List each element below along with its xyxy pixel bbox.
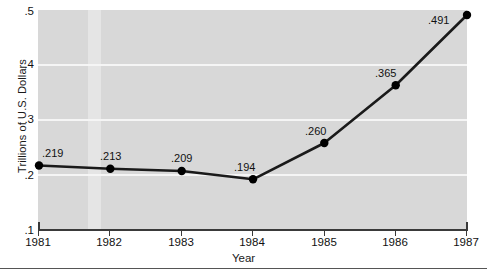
data-label-1987: .491 [428, 15, 449, 26]
data-label-1981: .219 [42, 148, 63, 159]
data-point-1984 [249, 175, 257, 183]
x-tick-label-1985: 1985 [299, 236, 349, 248]
data-label-1984: .194 [234, 162, 255, 173]
x-axis-title: Year [0, 252, 487, 264]
data-label-1985: .260 [305, 126, 326, 137]
x-tick-label-1982: 1982 [84, 236, 134, 248]
plot-area: .219 .213 .209 .194 .260 .365 .491 [38, 10, 467, 230]
y-tick-label-0: .5 [14, 5, 34, 17]
data-point-1987 [463, 11, 471, 19]
data-point-1986 [392, 81, 400, 89]
y-tick-label-4: .1 [14, 224, 34, 236]
y-tick-label-1: .4 [14, 58, 34, 70]
data-point-1982 [106, 165, 114, 173]
data-label-1986: .365 [375, 68, 396, 79]
footer-divider [0, 268, 487, 269]
x-axis-line [38, 229, 468, 231]
x-tick-label-1981: 1981 [13, 236, 63, 248]
y-tick-label-3: .2 [14, 169, 34, 181]
data-point-1985 [320, 139, 328, 147]
y-tick-label-2: .3 [14, 113, 34, 125]
data-point-1983 [178, 167, 186, 175]
data-label-1983: .209 [171, 153, 192, 164]
data-label-1982: .213 [100, 151, 121, 162]
line-chart-figure: Trillions of U.S. Dollars .5 .4 .3 .2 .1… [0, 0, 487, 274]
data-point-1981 [35, 161, 43, 169]
x-tick-label-1986: 1986 [370, 236, 420, 248]
x-tick-label-1987: 1987 [441, 236, 487, 248]
x-tick-label-1983: 1983 [156, 236, 206, 248]
data-line-and-markers [38, 10, 467, 230]
x-tick-label-1984: 1984 [227, 236, 277, 248]
